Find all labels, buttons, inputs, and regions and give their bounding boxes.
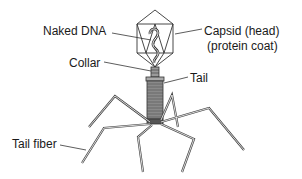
label-collar: Collar: [69, 57, 100, 69]
collar: [151, 67, 159, 77]
dna-strand: [150, 29, 158, 63]
label-capsid: Capsid (head): [204, 25, 279, 37]
label-naked-dna: Naked DNA: [43, 25, 106, 37]
label-tail: Tail: [190, 72, 208, 84]
label-protein-coat: (protein coat): [207, 40, 278, 52]
bacteriophage-diagram: Naked DNA Capsid (head) (protein coat) C…: [0, 0, 302, 179]
label-tail-fiber: Tail fiber: [12, 138, 57, 150]
